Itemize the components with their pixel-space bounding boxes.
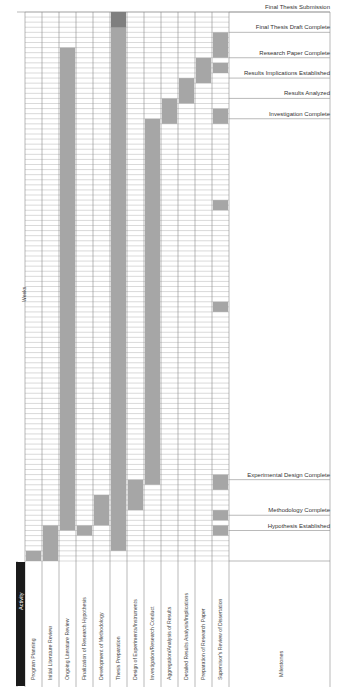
activity-bar bbox=[77, 525, 92, 535]
activity-bar-segment bbox=[213, 475, 228, 490]
activity-bar bbox=[179, 78, 194, 103]
activity-bar bbox=[145, 119, 160, 485]
activity-bar bbox=[94, 495, 109, 525]
activity-bar-segment bbox=[213, 63, 228, 73]
milestone-label: Research Paper Complete bbox=[259, 50, 330, 56]
activity-bar bbox=[43, 525, 58, 561]
milestone-label: Final Thesis Draft Complete bbox=[256, 24, 330, 30]
milestone-label: Investigation Complete bbox=[269, 111, 330, 117]
activity-label: Thesis Preparation bbox=[115, 636, 121, 680]
activity-bar bbox=[162, 98, 177, 123]
activity-bar-segment bbox=[213, 525, 228, 535]
activity-bar bbox=[196, 58, 211, 83]
activity-label: Design of Experiments/Instruments bbox=[132, 599, 138, 680]
activity-label: Ongoing Literature Review bbox=[64, 619, 70, 680]
activity-label: Finalization of Research Hypothesis bbox=[81, 597, 87, 680]
milestones-header-label: Milestones bbox=[278, 651, 284, 677]
activity-label: Investigation/Research Conduct bbox=[149, 606, 155, 680]
activity-label: Supervisor's Review of Dissertation bbox=[217, 599, 223, 680]
weeks-axis-label: Weeks bbox=[21, 287, 27, 302]
activity-label: Detailed Results Analysis/Implications bbox=[183, 593, 189, 680]
activity-bar bbox=[26, 551, 41, 561]
activity-bar-segment bbox=[213, 200, 228, 210]
activity-bar-segment bbox=[213, 510, 228, 520]
milestone-label: Hypothesis Established bbox=[268, 523, 330, 529]
activity-label: Initial Literature Review bbox=[47, 626, 53, 680]
activity-bar bbox=[111, 12, 126, 551]
milestone-label: Experimental Design Complete bbox=[247, 472, 330, 478]
gantt-chart bbox=[0, 0, 345, 697]
activity-header-cell bbox=[16, 562, 25, 686]
activity-label: Aggregation/Analysis of Results bbox=[166, 607, 172, 680]
activity-bar-segment bbox=[213, 109, 228, 124]
activity-label: Development of Methodology bbox=[98, 613, 104, 680]
activity-bar bbox=[60, 48, 75, 531]
activity-bar-segment bbox=[213, 302, 228, 312]
milestone-label: Methodology Complete bbox=[268, 507, 330, 513]
milestone-label: Results Analyzed bbox=[284, 90, 330, 96]
milestone-label: Results Implications Established bbox=[244, 70, 330, 76]
activity-label: Preparation of Research Paper bbox=[200, 608, 206, 680]
milestone-label: Final Thesis Submission bbox=[265, 4, 330, 10]
activity-bar-segment bbox=[213, 32, 228, 57]
activity-label: Program Planning bbox=[30, 638, 36, 680]
activity-header-label: Activity bbox=[18, 593, 24, 610]
activity-bar-final bbox=[111, 12, 126, 27]
activity-bar bbox=[128, 480, 143, 511]
